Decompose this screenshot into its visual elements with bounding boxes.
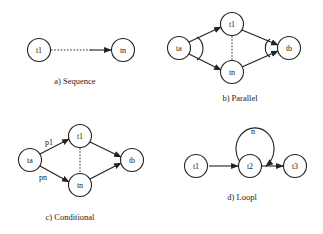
and-split-arc (197, 37, 203, 60)
sequence-diagram: t1 tn a) Sequence (28, 39, 135, 87)
sequence-caption: a) Sequence (54, 76, 96, 86)
conditional-edge-tn-tb (90, 163, 121, 179)
edge-label-p1: p1 (45, 138, 53, 147)
node-label: t1 (77, 132, 83, 141)
conditional-node-ta: ta (19, 149, 42, 172)
node-label: ta (176, 44, 182, 53)
node-label: tn (229, 68, 235, 77)
parallel-node-t1: t1 (221, 13, 244, 36)
parallel-diagram: ta t1 tn tb b) Parallel (168, 13, 301, 104)
loop-node-t1: t1 (185, 155, 208, 178)
edge-label-pn: pn (39, 173, 47, 182)
parallel-edge-t1-tb (242, 30, 278, 45)
sequence-node-t1: t1 (28, 39, 51, 62)
parallel-edge-ta-t1 (189, 27, 221, 42)
parallel-edge-ta-tn (189, 54, 221, 70)
conditional-node-t1: t1 (69, 125, 92, 148)
parallel-node-ta: ta (168, 37, 191, 60)
node-label: tn (77, 181, 83, 190)
node-label: ta (27, 156, 33, 165)
loop-diagram: n t1 t2 t3 d) Loopl (185, 127, 307, 202)
parallel-node-tb: tb (278, 37, 301, 60)
workflow-patterns-figure: t1 tn a) Sequence ta t1 tn tb (0, 0, 323, 234)
node-label: tb (129, 156, 135, 165)
conditional-caption: c) Conditional (46, 212, 96, 222)
sequence-node-tn: tn (112, 39, 135, 62)
conditional-node-tn: tn (69, 174, 92, 197)
node-label: t1 (193, 162, 199, 171)
conditional-diagram: p1 pn ta t1 tn tb c) Conditional (19, 125, 144, 223)
loop-count-label: n (251, 127, 255, 136)
conditional-node-tb: tb (121, 149, 144, 172)
node-label: t3 (292, 162, 298, 171)
loop-node-t3: t3 (284, 155, 307, 178)
parallel-caption: b) Parallel (222, 93, 258, 103)
node-label: t1 (36, 46, 42, 55)
parallel-edge-tn-tb (242, 51, 278, 67)
conditional-edge-t1-tb (90, 142, 121, 157)
loop-caption: d) Loopl (227, 192, 257, 202)
loop-node-t2: t2 (239, 155, 262, 178)
node-label: tb (286, 44, 292, 53)
node-label: t2 (247, 162, 253, 171)
parallel-node-tn: tn (221, 61, 244, 84)
node-label: tn (120, 46, 126, 55)
node-label: t1 (229, 20, 235, 29)
